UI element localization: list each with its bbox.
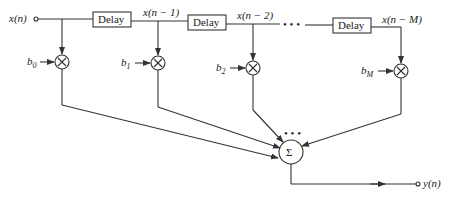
coef-b1: b1 (121, 56, 131, 71)
delay-label-2: Delay (193, 16, 220, 28)
tap-label-1: x(n − 1) (142, 6, 179, 19)
input-label: x(n) (8, 12, 27, 25)
input-terminal (34, 17, 38, 21)
output-terminal (416, 182, 420, 186)
coef-b0: b0 (27, 55, 37, 70)
diagram-svg: x(n) Delay Delay Delay x(n − 1) x(n − 2)… (0, 0, 449, 197)
sum-ellipsis: • • • (284, 127, 301, 139)
fir-filter-diagram: x(n) Delay Delay Delay x(n − 1) x(n − 2)… (0, 0, 449, 197)
delay-label-1: Delay (98, 13, 125, 25)
sum-symbol: Σ (286, 146, 292, 158)
delay-ellipsis: • • • (283, 18, 300, 30)
tap-label-M: x(n − M) (381, 13, 422, 26)
coef-b2: b2 (216, 61, 226, 76)
delay-label-M: Delay (338, 19, 365, 31)
coef-bM: bM (361, 64, 375, 79)
output-label: y(n) (422, 177, 441, 190)
tap-label-2: x(n − 2) (236, 9, 273, 22)
